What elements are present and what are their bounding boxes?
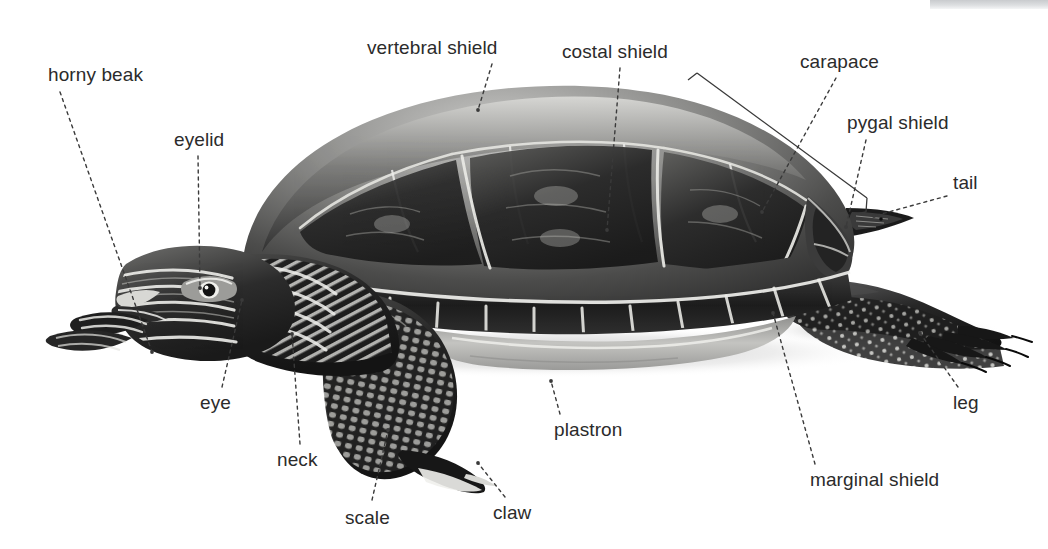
- turtle-anatomy-figure: horny beakeyelidvertebral shieldcostal s…: [0, 0, 1048, 549]
- turtle-illustration: [0, 0, 1048, 549]
- label-vertebral-shield: vertebral shield: [367, 38, 497, 58]
- label-eye: eye: [200, 393, 231, 413]
- label-tail: tail: [953, 173, 978, 193]
- label-scale: scale: [345, 508, 390, 528]
- eye-part: [199, 281, 219, 298]
- label-neck: neck: [277, 450, 318, 470]
- label-eyelid: eyelid: [174, 130, 224, 150]
- label-costal-shield: costal shield: [562, 42, 668, 62]
- label-marginal-shield: marginal shield: [810, 470, 939, 490]
- label-plastron: plastron: [554, 420, 622, 440]
- label-horny-beak: horny beak: [48, 65, 143, 85]
- label-leg: leg: [953, 393, 979, 413]
- head-part: [46, 246, 295, 361]
- label-pygal-shield: pygal shield: [847, 113, 949, 133]
- label-claw: claw: [493, 503, 531, 523]
- label-carapace: carapace: [800, 52, 879, 72]
